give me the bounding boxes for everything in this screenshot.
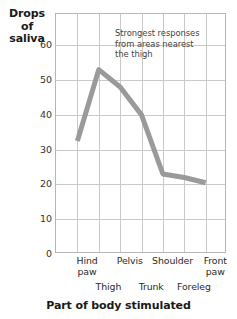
x-label-thigh: Thigh bbox=[96, 281, 122, 292]
y-tick-label-20: 20 bbox=[28, 178, 52, 189]
x-label-foreleg: Foreleg bbox=[177, 281, 211, 292]
annotation-line-1: Strongest responses bbox=[115, 28, 227, 39]
x-axis-labels-bottom-row: Thigh Trunk Foreleg bbox=[0, 281, 237, 295]
x-axis-labels-top-row: Hind paw Pelvis Shoulder Front paw bbox=[0, 255, 237, 281]
x-label-trunk: Trunk bbox=[139, 281, 164, 292]
chart-annotation: Strongest responses from areas nearest t… bbox=[115, 28, 227, 60]
y-tick-label-10: 10 bbox=[28, 213, 52, 224]
annotation-line-2: from areas nearest bbox=[115, 39, 227, 50]
saliva-line-path bbox=[77, 70, 205, 183]
y-tick-label-30: 30 bbox=[28, 143, 52, 154]
annotation-line-3: the thigh bbox=[115, 49, 227, 60]
x-axis-title: Part of body stimulated bbox=[0, 299, 237, 312]
y-tick-label-60: 60 bbox=[28, 39, 52, 50]
saliva-response-line-chart: Drops of saliva 60 50 40 30 20 10 0 Stro… bbox=[0, 0, 237, 319]
y-tick-label-40: 40 bbox=[28, 108, 52, 119]
x-label-hind-paw: Hind paw bbox=[76, 255, 97, 277]
x-label-shoulder: Shoulder bbox=[152, 255, 193, 266]
x-label-pelvis: Pelvis bbox=[117, 255, 143, 266]
x-label-front-paw: Front paw bbox=[204, 255, 227, 277]
y-tick-label-50: 50 bbox=[28, 74, 52, 85]
